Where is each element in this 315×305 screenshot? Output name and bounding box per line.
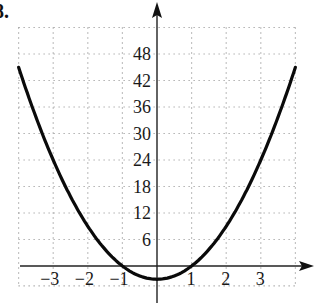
x-tick-label: 2 [221,270,230,288]
y-tick-label: 48 [121,45,151,63]
x-tick-label: −3 [40,270,59,288]
x-tick-label: −1 [109,270,128,288]
y-tick-label: 30 [121,125,151,143]
y-tick-label: 36 [121,98,151,116]
y-tick-label: 42 [121,72,151,90]
x-tick-label: −2 [75,270,94,288]
y-tick-label: 24 [121,151,151,169]
x-tick-label: 3 [256,270,265,288]
plot-area [0,0,315,305]
y-tick-label: 12 [121,204,151,222]
x-tick-label: 1 [187,270,196,288]
y-tick-label: 6 [121,231,151,249]
axes [20,2,314,303]
parabola-graph: 8. 612182430364248 −3−2−1123 [0,0,315,305]
y-tick-label: 18 [121,178,151,196]
